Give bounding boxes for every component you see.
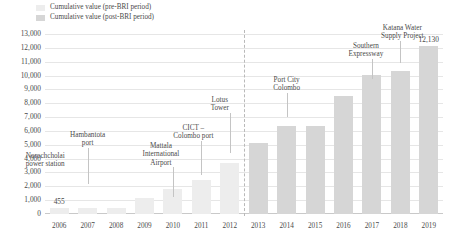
- annotation-2014: Port City Colombo: [250, 76, 324, 93]
- annotation-2006: Norochcholai power station: [8, 152, 82, 169]
- bar-2016: [334, 96, 353, 214]
- x-tick-label-2009: 2009: [130, 222, 160, 230]
- bar-2015: [306, 126, 325, 214]
- y-tick-label: 9,000: [0, 85, 41, 93]
- annotation-text: Lotus Tower: [183, 96, 257, 113]
- legend-label-pre: Cumulative value (pre-BRI period): [50, 3, 151, 12]
- legend-item-pre: Cumulative value (pre-BRI period): [36, 3, 256, 12]
- bar-2007: [78, 208, 97, 214]
- annotation-2017: Southern Expressway: [329, 42, 403, 59]
- annotation-leader-line: [372, 59, 373, 79]
- bar-2009: [135, 198, 154, 214]
- x-tick-label-2010: 2010: [158, 222, 188, 230]
- x-tick-label-2008: 2008: [101, 222, 131, 230]
- x-tick-label-2012: 2012: [215, 222, 245, 230]
- bar-2013: [249, 143, 268, 214]
- annotation-2007: Hambantota port: [51, 131, 125, 148]
- legend-swatch-post: [36, 15, 45, 21]
- y-tick-label: 0: [0, 210, 41, 218]
- y-tick-label: 8,000: [0, 99, 41, 107]
- y-tick-label: 5,000: [0, 141, 41, 149]
- annotation-leader-line: [88, 148, 89, 184]
- bar-2017: [362, 75, 381, 214]
- annotation-text: Hambantota port: [51, 131, 125, 148]
- bri-period-divider: [244, 30, 245, 216]
- annotation-2011: CICT – Colombo port: [156, 124, 230, 141]
- annotation-leader-line: [173, 167, 174, 197]
- x-tick-label-2019: 2019: [414, 222, 444, 230]
- annotation-leader-line: [400, 41, 401, 63]
- bar-2014: [277, 126, 296, 214]
- bar-2011: [192, 180, 211, 214]
- bar-2006: [50, 208, 69, 214]
- annotation-text: Norochcholai power station: [8, 152, 82, 169]
- y-tick-label: 1,000: [0, 196, 41, 204]
- y-tick-label: 12,000: [0, 44, 41, 52]
- y-tick-label: 7,000: [0, 113, 41, 121]
- bar-2012: [220, 163, 239, 214]
- legend-item-post: Cumulative value (post-BRI period): [36, 13, 256, 22]
- x-axis-labels: 2006200720082009201020112012201320142015…: [45, 222, 443, 234]
- y-tick-label: 6,000: [0, 127, 41, 135]
- bar-2008: [107, 208, 126, 214]
- legend-swatch-pre: [36, 5, 45, 11]
- annotation-leader-line: [287, 93, 288, 117]
- y-tick-label: 3,000: [0, 168, 41, 176]
- legend-label-post: Cumulative value (post-BRI period): [50, 13, 154, 22]
- bar-2019: [419, 46, 438, 214]
- x-tick-label-2007: 2007: [73, 222, 103, 230]
- annotation-text: Southern Expressway: [329, 42, 403, 59]
- chart-legend: Cumulative value (pre-BRI period)Cumulat…: [36, 3, 256, 23]
- x-tick-label-2015: 2015: [300, 222, 330, 230]
- y-tick-label: 2,000: [0, 182, 41, 190]
- x-tick-label-2017: 2017: [357, 222, 387, 230]
- y-tick-label: 13,000: [0, 30, 41, 38]
- y-tick-label: 10,000: [0, 72, 41, 80]
- annotation-text: Katana Water Supply Project: [365, 24, 439, 41]
- x-tick-label-2006: 2006: [44, 222, 74, 230]
- annotation-leader-line: [230, 113, 231, 153]
- bar-2018: [391, 71, 410, 214]
- bar-chart: Cumulative value (pre-BRI period)Cumulat…: [0, 0, 449, 241]
- annotation-2010: Mattala International Airport: [124, 142, 198, 167]
- y-tick-label: 11,000: [0, 58, 41, 66]
- x-tick-label-2014: 2014: [272, 222, 302, 230]
- data-label-2006: 455: [39, 197, 79, 206]
- y-axis-labels: 13,00012,00011,00010,0009,0008,0007,0006…: [0, 34, 41, 214]
- x-tick-label-2016: 2016: [329, 222, 359, 230]
- annotation-text: Port City Colombo: [250, 76, 324, 93]
- x-tick-label-2018: 2018: [385, 222, 415, 230]
- annotation-2018: Katana Water Supply Project: [365, 24, 439, 41]
- annotation-text: Mattala International Airport: [124, 142, 198, 167]
- x-tick-label-2013: 2013: [243, 222, 273, 230]
- x-tick-label-2011: 2011: [186, 222, 216, 230]
- annotation-2012: Lotus Tower: [183, 96, 257, 113]
- annotation-leader-line: [201, 141, 202, 175]
- annotation-text: CICT – Colombo port: [156, 124, 230, 141]
